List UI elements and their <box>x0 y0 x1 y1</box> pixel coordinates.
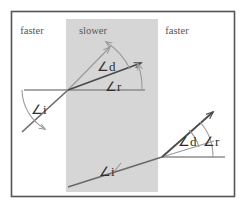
medium-label-right-faster: faster <box>165 25 189 36</box>
angle-label-top-incidence: ∠i <box>31 102 47 117</box>
angle-label-bottom-deviation: ∠d <box>178 134 197 149</box>
angle-label-bottom-refraction: ∠r <box>203 134 220 149</box>
medium-label-left-faster: faster <box>20 25 44 36</box>
diagram-canvas: faster slower faster ∠i ∠d ∠r ∠i ∠d ∠r <box>0 0 247 220</box>
medium-label-slower: slower <box>79 25 107 36</box>
refraction-diagram-figure: faster slower faster ∠i ∠d ∠r ∠i ∠d ∠r <box>0 0 247 220</box>
angle-label-top-refraction: ∠r <box>105 79 122 94</box>
angle-label-top-deviation: ∠d <box>97 59 116 74</box>
angle-label-bottom-incidence: ∠i <box>99 164 115 179</box>
